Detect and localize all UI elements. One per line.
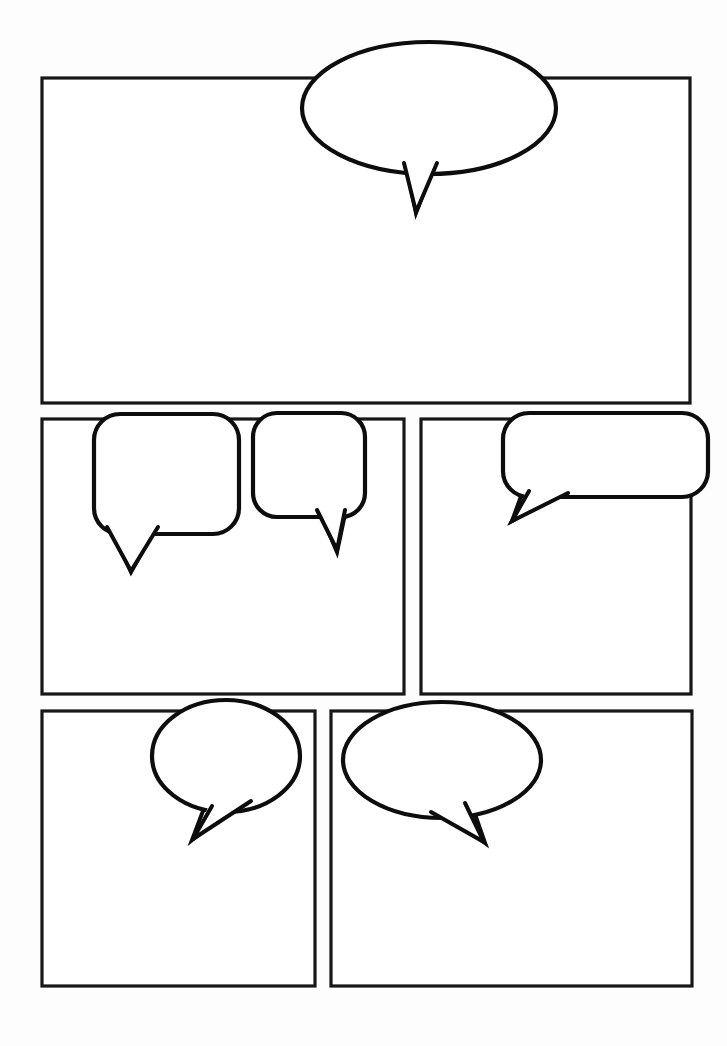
- balloon-1-body: [302, 42, 556, 174]
- comic-page: [0, 0, 727, 1046]
- comic-page-canvas: [0, 0, 727, 1046]
- balloon-5-body: [152, 700, 300, 812]
- balloon-4-body: [503, 413, 708, 497]
- balloon-3-body: [253, 413, 365, 517]
- balloon-6-body: [343, 702, 541, 818]
- balloon-2-body: [94, 414, 239, 534]
